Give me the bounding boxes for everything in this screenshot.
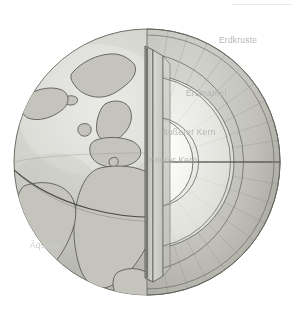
top-divider-rule [232, 4, 292, 5]
italy-shape [109, 157, 118, 166]
south-america-shape [10, 183, 76, 284]
cutaway-wedge [145, 29, 280, 295]
mantle-cut-face [153, 50, 163, 282]
mantle-inner-face [163, 56, 170, 276]
crust-slab-face [145, 46, 153, 282]
earth-cutaway-diagram [0, 0, 295, 319]
british-isles-shape [78, 124, 91, 137]
